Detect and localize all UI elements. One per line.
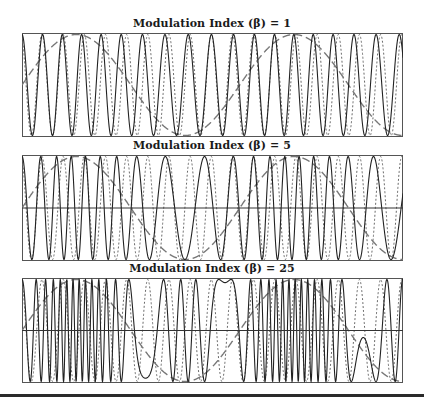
bottom-divider-rule bbox=[0, 394, 424, 397]
panel-title-beta-1: Modulation Index (β) = 1 bbox=[0, 17, 424, 30]
waveform-chart bbox=[22, 33, 403, 137]
plot-beta-1 bbox=[22, 33, 403, 137]
waveform-chart bbox=[22, 155, 403, 261]
plot-beta-25 bbox=[22, 278, 403, 383]
panel-title-beta-25: Modulation Index (β) = 25 bbox=[0, 262, 424, 275]
panel-title-beta-5: Modulation Index (β) = 5 bbox=[0, 139, 424, 152]
waveform-chart bbox=[22, 278, 403, 383]
plot-beta-5 bbox=[22, 155, 403, 261]
